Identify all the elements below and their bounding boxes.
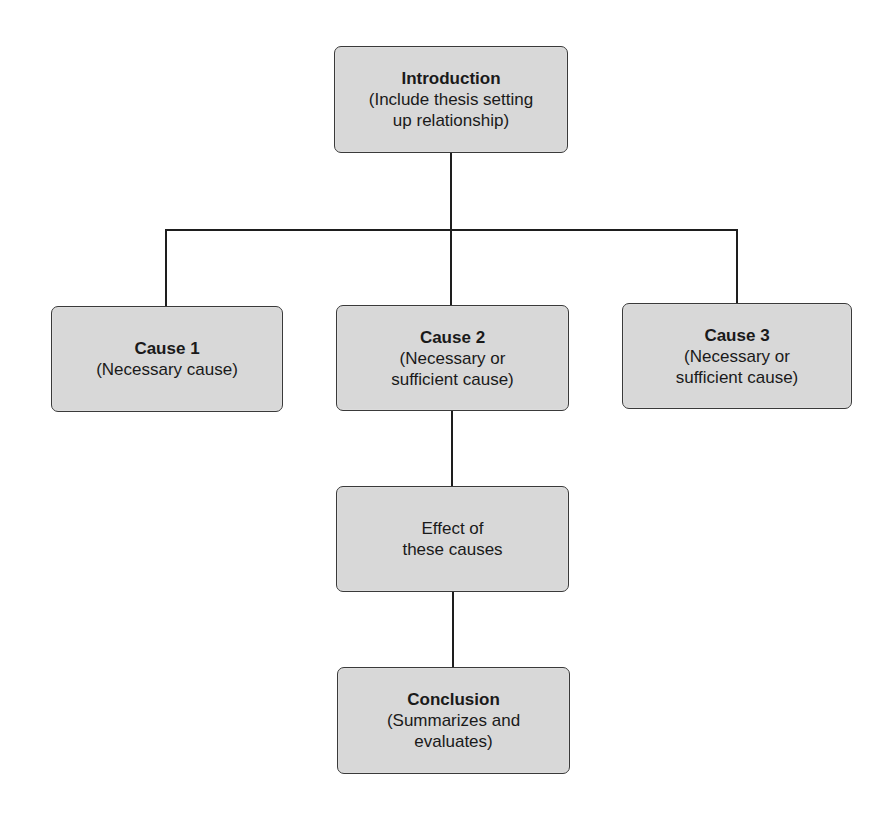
introduction-box: Introduction (Include thesis setting up … (334, 46, 568, 153)
connector-to-cause2 (450, 229, 452, 306)
cause1-title: Cause 1 (134, 338, 199, 359)
connector-to-cause1 (165, 229, 167, 307)
cause3-title: Cause 3 (704, 325, 769, 346)
cause3-desc: (Necessary or sufficient cause) (676, 346, 799, 388)
cause1-box: Cause 1 (Necessary cause) (51, 306, 283, 412)
effect-box: Effect of these causes (336, 486, 569, 592)
cause2-box: Cause 2 (Necessary or sufficient cause) (336, 305, 569, 411)
effect-desc: Effect of these causes (402, 518, 502, 560)
connector-cause2-to-effect (451, 410, 453, 487)
conclusion-desc: (Summarizes and evaluates) (387, 710, 520, 752)
introduction-desc: (Include thesis setting up relationship) (369, 89, 533, 131)
introduction-title: Introduction (401, 68, 500, 89)
cause3-box: Cause 3 (Necessary or sufficient cause) (622, 303, 852, 409)
connector-to-cause3 (736, 229, 738, 304)
connector-effect-to-conclusion (452, 591, 454, 668)
conclusion-box: Conclusion (Summarizes and evaluates) (337, 667, 570, 774)
connector-intro-down (450, 152, 452, 231)
cause1-desc: (Necessary cause) (96, 359, 238, 380)
conclusion-title: Conclusion (407, 689, 500, 710)
cause2-title: Cause 2 (420, 327, 485, 348)
cause2-desc: (Necessary or sufficient cause) (391, 348, 514, 390)
